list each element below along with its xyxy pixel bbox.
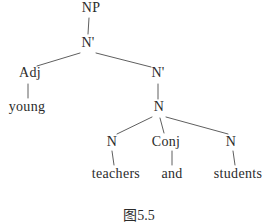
edge-nbar1-nbar2: [96, 53, 151, 67]
edge-nbar1-adj: [37, 53, 80, 66]
node-n-right: N: [226, 135, 236, 149]
syntax-tree-diagram: NP N' Adj N' young N N Conj N teachers a…: [0, 0, 268, 223]
edge-nleft-teachers: [112, 151, 114, 165]
edge-ntop-nleft: [117, 117, 152, 134]
node-nbar-2: N': [151, 66, 164, 80]
node-n-top: N: [154, 100, 164, 114]
node-n-left: N: [107, 135, 117, 149]
leaf-and: and: [161, 167, 182, 181]
node-conj: Conj: [152, 135, 180, 149]
leaf-young: young: [9, 100, 46, 114]
edge-ntop-conj: [160, 118, 164, 133]
edge-ntop-nright: [166, 117, 228, 134]
node-np: NP: [82, 1, 101, 15]
figure-caption: 图5.5: [123, 208, 155, 223]
edge-lines: [28, 18, 235, 165]
leaf-teachers: teachers: [92, 167, 140, 181]
edge-nright-students: [233, 151, 235, 165]
node-adj: Adj: [19, 66, 41, 80]
node-nbar-1: N': [81, 36, 94, 50]
edge-np-nbar1: [88, 18, 89, 34]
leaf-students: students: [214, 167, 262, 181]
